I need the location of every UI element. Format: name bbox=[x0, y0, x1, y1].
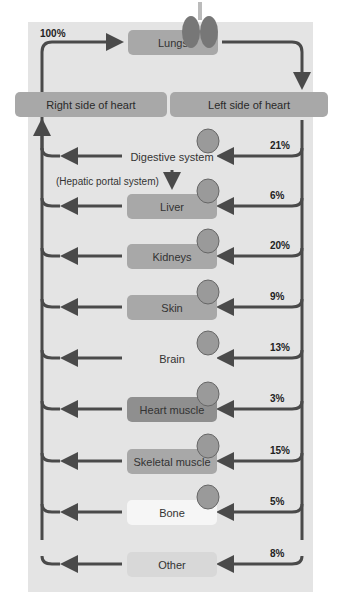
organ-label: Kidneys bbox=[152, 251, 191, 263]
kidney-icon bbox=[195, 226, 221, 254]
organ-percent: 3% bbox=[270, 393, 284, 404]
organ-percent: 15% bbox=[270, 445, 290, 456]
hepatic-note: (Hepatic portal system) bbox=[56, 176, 159, 187]
left-heart-bar: Left side of heart bbox=[170, 92, 328, 117]
stomach-icon bbox=[195, 126, 221, 154]
organ-percent: 21% bbox=[270, 140, 290, 151]
organ-label: Bone bbox=[159, 507, 185, 519]
right-heart-bar: Right side of heart bbox=[15, 92, 167, 117]
right-heart-label: Right side of heart bbox=[46, 99, 135, 111]
heart-icon bbox=[195, 379, 221, 407]
muscle-icon bbox=[195, 431, 221, 459]
lungs-icon bbox=[180, 2, 220, 50]
brain-icon bbox=[195, 328, 221, 356]
skin-icon bbox=[195, 277, 221, 305]
organ-label: Other bbox=[158, 559, 186, 571]
organ-percent: 20% bbox=[270, 240, 290, 251]
organ-percent: 6% bbox=[270, 190, 284, 201]
organ-box: Other bbox=[127, 552, 217, 577]
bone-icon bbox=[195, 482, 221, 510]
left-heart-label: Left side of heart bbox=[208, 99, 290, 111]
organ-percent: 13% bbox=[270, 342, 290, 353]
total-percent: 100% bbox=[40, 28, 66, 39]
organ-percent: 5% bbox=[270, 496, 284, 507]
organ-label: Brain bbox=[159, 353, 185, 365]
organ-label: Liver bbox=[160, 201, 184, 213]
organ-percent: 9% bbox=[270, 291, 284, 302]
liver-icon bbox=[195, 176, 221, 204]
organ-percent: 8% bbox=[270, 548, 284, 559]
organ-label: Skin bbox=[161, 302, 182, 314]
